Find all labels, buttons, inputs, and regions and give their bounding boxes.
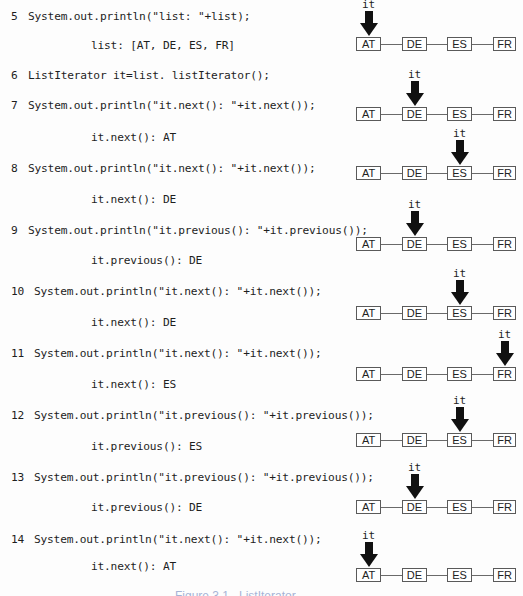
code-line-14: 14System.out.println("it.next(): "+it.ne… [0, 533, 322, 546]
link-line [427, 244, 447, 245]
pointer-label: it [359, 0, 379, 10]
link-line [427, 313, 447, 314]
link-line [427, 114, 447, 115]
list-node-fr: FR [493, 367, 516, 381]
code-text: System.out.println("it.next(): "+it.next… [28, 99, 316, 112]
link-line [472, 44, 493, 45]
arrow-down-icon [456, 280, 464, 292]
code-line-6: 6ListIterator it=list. listIterator(); [0, 69, 270, 82]
list-node-es: ES [447, 433, 472, 447]
line-number: 11 [0, 347, 34, 360]
arrow-down-icon [411, 211, 419, 223]
list-node-fr: FR [493, 500, 516, 514]
arrow-head-icon [360, 23, 378, 36]
arrow-head-icon [496, 353, 514, 366]
iterator-pointer: it [405, 199, 425, 236]
iterator-pointer: it [450, 395, 470, 432]
link-line [381, 44, 402, 45]
output-line: it.previous(): DE [91, 501, 202, 514]
list-node-at: AT [356, 500, 381, 514]
arrow-head-icon [406, 223, 424, 236]
link-line [472, 244, 493, 245]
line-number: 7 [0, 99, 28, 112]
link-line [381, 575, 402, 576]
iterator-pointer: it [359, 530, 379, 567]
code-text: System.out.println("it.previous(): "+it.… [34, 471, 374, 484]
line-number: 13 [0, 471, 34, 484]
output-line: list: [AT, DE, ES, FR] [91, 39, 235, 52]
link-line [381, 507, 402, 508]
code-text: System.out.println("it.next(): "+it.next… [34, 533, 322, 546]
list-node-fr: FR [493, 433, 516, 447]
list-node-at: AT [356, 37, 381, 51]
link-line [472, 440, 493, 441]
code-text: ListIterator it=list. listIterator(); [28, 69, 270, 82]
iterator-pointer: it [450, 268, 470, 305]
list-node-de: DE [402, 306, 427, 320]
code-text: System.out.println("it.previous(): "+it.… [34, 409, 374, 422]
output-line: it.next(): DE [91, 316, 176, 329]
list-node-de: DE [402, 367, 427, 381]
link-line [427, 440, 447, 441]
link-line [472, 575, 493, 576]
link-line [472, 507, 493, 508]
link-line [472, 173, 493, 174]
arrow-head-icon [406, 93, 424, 106]
output-line: it.previous(): DE [91, 254, 202, 267]
code-line-5: 5System.out.println("list: "+list); [0, 10, 250, 23]
figure-caption: Figure 3.1 ListIterator [175, 589, 296, 596]
line-number: 10 [0, 285, 34, 298]
list-node-de: DE [402, 500, 427, 514]
link-line [381, 313, 402, 314]
link-line [427, 575, 447, 576]
list-node-es: ES [447, 37, 472, 51]
arrow-head-icon [406, 486, 424, 499]
arrow-head-icon [451, 152, 469, 165]
iterator-pointer: it [450, 128, 470, 165]
iterator-pointer: it [359, 0, 379, 36]
iterator-pointer: it [495, 329, 515, 366]
list-node-de: DE [402, 237, 427, 251]
arrow-head-icon [451, 292, 469, 305]
pointer-label: it [450, 128, 470, 139]
list-node-at: AT [356, 107, 381, 121]
list-node-es: ES [447, 166, 472, 180]
code-line-9: 9System.out.println("it.previous(): "+it… [0, 224, 368, 237]
line-number: 5 [0, 10, 28, 23]
code-line-11: 11System.out.println("it.next(): "+it.ne… [0, 347, 322, 360]
code-line-10: 10System.out.println("it.next(): "+it.ne… [0, 285, 322, 298]
list-node-fr: FR [493, 107, 516, 121]
arrow-down-icon [411, 474, 419, 486]
list-node-at: AT [356, 367, 381, 381]
code-line-13: 13System.out.println("it.previous(): "+i… [0, 471, 374, 484]
link-line [381, 440, 402, 441]
link-line [427, 44, 447, 45]
pointer-label: it [405, 462, 425, 473]
list-node-de: DE [402, 37, 427, 51]
link-line [427, 507, 447, 508]
list-node-at: AT [356, 433, 381, 447]
arrow-down-icon [411, 81, 419, 93]
iterator-pointer: it [405, 69, 425, 106]
pointer-label: it [450, 395, 470, 406]
list-node-es: ES [447, 367, 472, 381]
list-node-at: AT [356, 237, 381, 251]
code-text: System.out.println("it.next(): "+it.next… [34, 347, 322, 360]
list-node-at: AT [356, 568, 381, 582]
pointer-label: it [450, 268, 470, 279]
link-line [472, 114, 493, 115]
output-line: it.next(): AT [91, 131, 176, 144]
output-line: it.next(): DE [91, 193, 176, 206]
list-node-de: DE [402, 433, 427, 447]
list-node-at: AT [356, 166, 381, 180]
list-node-de: DE [402, 166, 427, 180]
link-line [427, 374, 447, 375]
list-node-fr: FR [493, 568, 516, 582]
list-node-fr: FR [493, 37, 516, 51]
line-number: 8 [0, 162, 28, 175]
arrow-down-icon [365, 11, 373, 23]
arrow-down-icon [501, 341, 509, 353]
code-line-8: 8System.out.println("it.next(): "+it.nex… [0, 162, 316, 175]
code-text: System.out.println("list: "+list); [28, 10, 250, 23]
code-text: System.out.println("it.next(): "+it.next… [34, 285, 322, 298]
